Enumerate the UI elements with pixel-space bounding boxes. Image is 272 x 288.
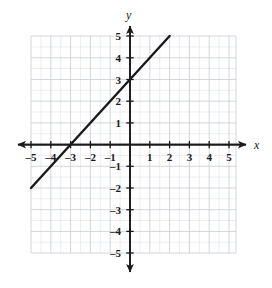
- y-tick-label-pos5: 5: [106, 31, 121, 42]
- y-tick-label-neg4: –4: [101, 226, 121, 237]
- y-tick-label-neg1: –1: [101, 161, 121, 172]
- x-tick-label-pos4: 4: [199, 152, 219, 163]
- x-axis-label: x: [254, 139, 259, 151]
- y-axis-label: y: [126, 9, 131, 21]
- graph-canvas: [0, 0, 272, 288]
- y-tick-label-pos3: 3: [106, 75, 121, 86]
- x-tick-label-neg4: –4: [41, 152, 61, 163]
- y-tick-label-pos4: 4: [106, 53, 121, 64]
- x-tick-label-pos2: 2: [160, 152, 180, 163]
- x-tick-label-neg5: –5: [21, 152, 41, 163]
- x-tick-label-pos5: 5: [219, 152, 239, 163]
- y-tick-label-pos2: 2: [106, 96, 121, 107]
- x-tick-label-neg2: –2: [80, 152, 100, 163]
- y-tick-label-neg5: –5: [101, 248, 121, 259]
- x-tick-label-neg3: –3: [61, 152, 81, 163]
- y-tick-label-neg3: –3: [101, 205, 121, 216]
- y-tick-label-pos1: 1: [106, 118, 121, 129]
- x-tick-label-pos1: 1: [140, 152, 160, 163]
- x-tick-label-pos3: 3: [179, 152, 199, 163]
- y-tick-label-neg2: –2: [101, 183, 121, 194]
- coordinate-plane-figure: –5 –4 –3 –2 –1 1 2 3 4 5 5 4 3 2 1 –1 –2…: [0, 0, 272, 288]
